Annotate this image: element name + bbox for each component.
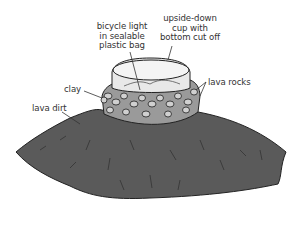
- label-clay: clay: [64, 85, 81, 95]
- label-lava-dirt: lava dirt: [32, 104, 67, 114]
- volcano-diagram: bicycle light in sealable plastic bag up…: [0, 0, 304, 242]
- label-cup: upside-down cup with bottom cut off: [148, 14, 232, 43]
- label-lava-rocks: lava rocks: [208, 78, 251, 88]
- cup-rim: [113, 60, 189, 80]
